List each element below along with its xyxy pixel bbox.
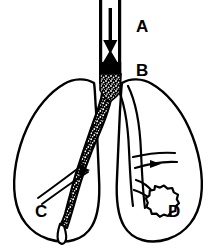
figure-label-c: C: [35, 203, 47, 220]
respiratory-diagram: A B C D: [0, 0, 213, 249]
figure-label-d: D: [168, 203, 180, 220]
down-arrow-icon: [103, 8, 117, 54]
figure-label-a: A: [136, 18, 148, 35]
diagram-canvas: [0, 0, 213, 249]
figure-label-b: B: [136, 62, 148, 79]
